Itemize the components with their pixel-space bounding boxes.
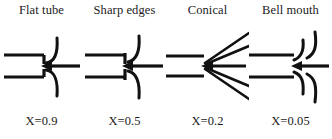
streamline-upper [128, 36, 139, 62]
streamline-upper [46, 38, 57, 63]
entrance-type-bell-mouth: Bell mouth [249, 0, 332, 139]
entrance-xvalue-sharp-edges: X=0.5 [83, 113, 166, 129]
entrance-title-conical: Conical [166, 2, 249, 18]
entrance-figure-flat-tube [0, 24, 83, 110]
entrance-figure-bell-mouth [249, 24, 332, 110]
streamline-lower [46, 70, 57, 96]
bell-curve-upper-outer [307, 32, 316, 58]
entrance-figure-sharp-edges [83, 24, 166, 110]
bell-curve-lower-outer [307, 74, 316, 102]
streamline-lower [128, 71, 139, 98]
entrance-title-bell-mouth: Bell mouth [249, 2, 332, 18]
flow-arrow-head [291, 61, 302, 71]
bell-curve-upper-inner [294, 40, 303, 60]
entrance-type-conical: Conical X=0.2 [166, 0, 249, 139]
entrance-type-sharp-edges: Sharp edges X=0.5 [83, 0, 166, 139]
entrance-xvalue-conical: X=0.2 [166, 113, 249, 129]
bell-curve-lower-inner [294, 72, 303, 94]
entrance-xvalue-bell-mouth: X=0.05 [249, 113, 332, 129]
entrance-title-flat-tube: Flat tube [0, 2, 83, 18]
diagram-canvas: Flat tube [0, 0, 332, 139]
entrance-title-sharp-edges: Sharp edges [83, 2, 166, 18]
entrance-type-flat-tube: Flat tube [0, 0, 83, 139]
entrance-figure-conical [166, 24, 249, 110]
entrance-xvalue-flat-tube: X=0.9 [0, 113, 83, 129]
